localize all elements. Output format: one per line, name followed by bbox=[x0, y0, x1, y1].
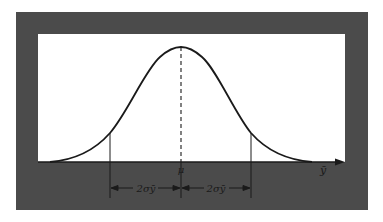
x-axis-label: ȳ bbox=[319, 164, 327, 177]
mean-label: μ bbox=[178, 164, 185, 175]
normal-curve-diagram: μ ȳ 2σȳ 2σȳ bbox=[0, 0, 383, 222]
left-interval-label: 2σȳ bbox=[136, 183, 156, 194]
plot-area bbox=[38, 34, 345, 162]
right-interval-label: 2σȳ bbox=[206, 183, 226, 194]
